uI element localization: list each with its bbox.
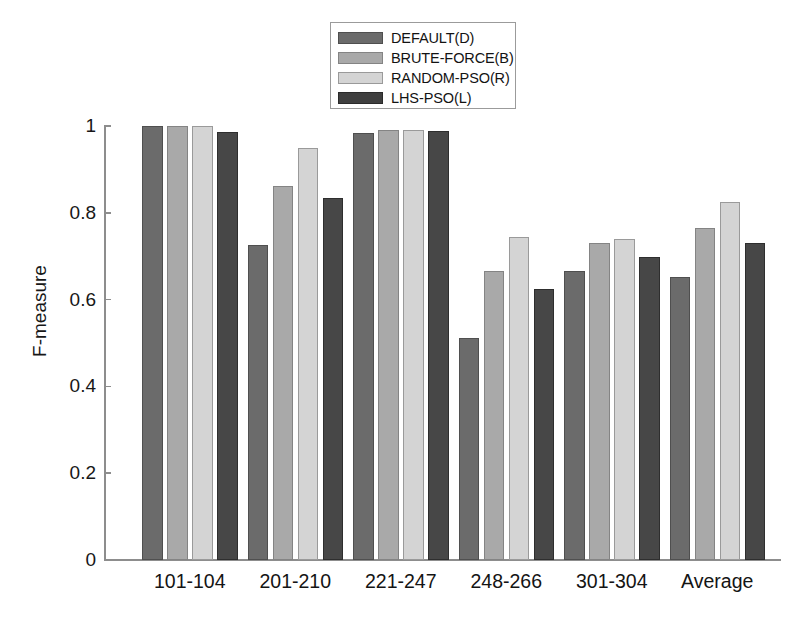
x-axis-tick-label: Average: [681, 570, 753, 593]
legend: DEFAULT(D) BRUTE-FORCE(B) RANDOM-PSO(R) …: [330, 22, 516, 109]
bar: [459, 338, 480, 560]
legend-item[interactable]: LHS-PSO(L): [338, 88, 515, 107]
bar: [353, 133, 374, 560]
bar: [273, 186, 294, 560]
bar: [378, 130, 399, 560]
legend-item[interactable]: RANDOM-PSO(R): [338, 68, 515, 87]
bar: [695, 228, 716, 560]
legend-swatch-icon: [338, 52, 383, 64]
legend-swatch-icon: [338, 92, 383, 104]
y-axis-title: F-measure: [29, 241, 51, 381]
legend-item[interactable]: BRUTE-FORCE(B): [338, 48, 515, 67]
bar: [484, 271, 505, 560]
bar: [720, 202, 741, 560]
bar: [614, 239, 635, 560]
bar: [509, 237, 530, 560]
x-axis-tick-label: 101-104: [154, 570, 226, 593]
legend-item-label: DEFAULT(D): [391, 30, 474, 46]
legend-swatch-icon: [338, 32, 383, 44]
bar: [589, 243, 610, 560]
legend-swatch-icon: [338, 72, 383, 84]
legend-item[interactable]: DEFAULT(D): [338, 28, 515, 47]
bar: [428, 131, 449, 560]
y-axis-tick-label: 0.4: [36, 375, 96, 397]
bar: [323, 198, 344, 560]
bar: [403, 130, 424, 560]
bar: [745, 243, 766, 560]
x-axis-tick-label: 221-247: [365, 570, 437, 593]
bar: [534, 289, 555, 560]
legend-item-label: RANDOM-PSO(R): [391, 70, 510, 86]
y-axis-tick-label: 0.6: [36, 289, 96, 311]
bar: [167, 126, 188, 560]
bar: [639, 257, 660, 560]
bar: [298, 148, 319, 560]
y-axis-tick-label: 0.2: [36, 462, 96, 484]
bar: [217, 132, 238, 560]
bar: [670, 277, 691, 560]
legend-item-label: LHS-PSO(L): [391, 90, 471, 106]
bar-chart: F-measure 00.20.40.60.81 101-104201-2102…: [0, 0, 793, 619]
bar: [248, 245, 269, 560]
bar: [142, 126, 163, 560]
x-axis-tick-label: 301-304: [576, 570, 648, 593]
y-axis-tick-label: 0: [36, 549, 96, 571]
y-axis-tick-label: 0.8: [36, 202, 96, 224]
y-axis-tick-label: 1: [36, 115, 96, 137]
x-axis-tick-label: 248-266: [470, 570, 542, 593]
x-axis-tick-label: 201-210: [259, 570, 331, 593]
bar: [192, 126, 213, 560]
legend-item-label: BRUTE-FORCE(B): [391, 50, 514, 66]
bar: [564, 271, 585, 560]
plot-area: [104, 126, 780, 560]
